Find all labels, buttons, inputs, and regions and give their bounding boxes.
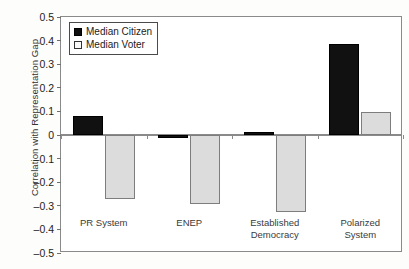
y-axis-tick-mark (57, 229, 61, 230)
y-axis-tick: –0.4 (34, 223, 61, 235)
y-axis-tick-mark (57, 111, 61, 112)
y-axis-tick-label: 0.4 (39, 35, 57, 47)
x-axis-tick-mark (147, 135, 148, 139)
x-axis-category-label: Established Democracy (232, 217, 318, 240)
y-axis-tick: –0.5 (34, 247, 61, 259)
y-axis-tick: 0 (48, 129, 61, 141)
y-axis-tick-mark (57, 40, 61, 41)
y-axis-tick-label: 0.1 (39, 105, 57, 117)
y-axis-tick: 0.4 (39, 35, 61, 47)
y-axis-tick-mark (57, 205, 61, 206)
y-axis-tick-label: 0.5 (39, 11, 57, 23)
bar-median-citizen (329, 44, 359, 135)
legend: Median Citizen Median Voter (69, 22, 158, 55)
plot-inner: 0.50.40.30.20.10–0.1–0.2–0.3–0.4–0.5 PR … (61, 17, 401, 251)
x-axis-category-label: Polarized System (318, 217, 404, 240)
bar-median-voter (105, 135, 135, 199)
y-axis-tick-mark (57, 17, 61, 18)
y-axis-tick-mark (57, 158, 61, 159)
legend-item-median-citizen: Median Citizen (74, 25, 152, 38)
y-axis-tick-label: –0.4 (34, 223, 57, 235)
y-axis-tick: 0.2 (39, 82, 61, 94)
bar-median-citizen (244, 132, 274, 135)
bar-chart-figure: Correlation with Representation Gap 0.50… (0, 0, 409, 269)
legend-label-median-citizen: Median Citizen (86, 26, 152, 37)
y-axis-tick: –0.1 (34, 153, 61, 165)
y-axis-tick-label: –0.2 (34, 176, 57, 188)
bar-median-voter (361, 112, 391, 135)
y-axis-tick-mark (57, 64, 61, 65)
y-axis-tick: 0.1 (39, 105, 61, 117)
x-axis-tick-mark (232, 135, 233, 139)
x-axis-tick-mark (61, 135, 62, 139)
y-axis-tick: 0.5 (39, 11, 61, 23)
bar-median-citizen (73, 116, 103, 135)
y-axis-tick-mark (57, 87, 61, 88)
bar-median-voter (190, 135, 220, 204)
plot-area: 0.50.40.30.20.10–0.1–0.2–0.3–0.4–0.5 PR … (60, 16, 402, 252)
y-axis-tick-label: –0.5 (34, 247, 57, 259)
y-axis-tick-label: 0.3 (39, 58, 57, 70)
y-axis-tick-label: –0.3 (34, 200, 57, 212)
x-axis-category-label: PR System (61, 217, 147, 229)
legend-swatch-icon-median-citizen (74, 28, 82, 36)
legend-label-median-voter: Median Voter (86, 39, 145, 50)
bar-median-voter (276, 135, 306, 212)
x-axis-category-label: ENEP (147, 217, 233, 229)
legend-swatch-icon-median-voter (74, 41, 82, 49)
y-axis-tick-mark (57, 253, 61, 254)
legend-item-median-voter: Median Voter (74, 38, 152, 51)
y-axis-tick-label: 0.2 (39, 82, 57, 94)
y-axis-tick: –0.2 (34, 176, 61, 188)
bar-median-citizen (158, 135, 188, 138)
y-axis-tick: 0.3 (39, 58, 61, 70)
y-axis-tick-mark (57, 182, 61, 183)
y-axis-tick-label: –0.1 (34, 153, 57, 165)
y-axis-tick-label: 0 (48, 129, 57, 141)
y-axis-tick: –0.3 (34, 200, 61, 212)
x-axis-tick-mark (403, 135, 404, 139)
x-axis-tick-mark (318, 135, 319, 139)
